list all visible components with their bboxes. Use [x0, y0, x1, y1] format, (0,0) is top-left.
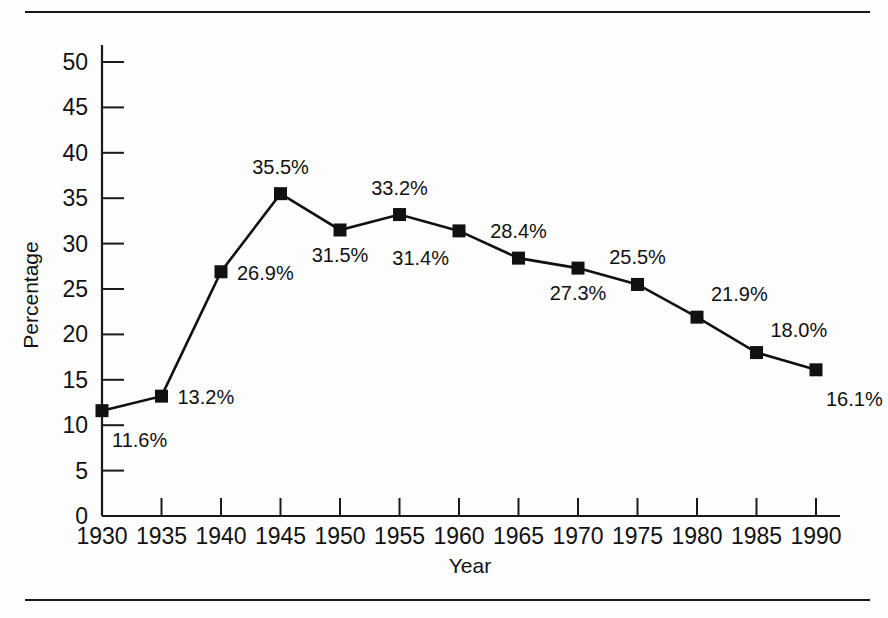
data-point-label: 25.5%: [609, 246, 666, 268]
y-axis-title: Percentage: [19, 241, 42, 348]
y-axis-tick-label: 35: [62, 185, 88, 211]
data-marker: [631, 278, 644, 291]
x-axis-tick-label: 1980: [671, 523, 722, 549]
x-axis-tick-label: 1965: [493, 523, 544, 549]
data-point-label: 31.4%: [392, 247, 449, 269]
x-axis-tick-label: 1940: [195, 523, 246, 549]
x-axis-tick-label: 1975: [612, 523, 663, 549]
data-marker: [691, 311, 704, 324]
x-axis-tick-label: 1960: [433, 523, 484, 549]
x-axis-tick-label: 1950: [314, 523, 365, 549]
y-axis-tick-label: 5: [75, 458, 88, 484]
data-point-label: 18.0%: [771, 319, 828, 341]
y-axis-tick-label: 10: [62, 412, 88, 438]
data-point-label: 35.5%: [252, 156, 309, 178]
chart-figure: 05101520253035404550 1930193519401945195…: [0, 0, 888, 618]
data-point-label: 33.2%: [371, 177, 428, 199]
data-marker: [393, 208, 406, 221]
data-marker: [334, 223, 347, 236]
y-axis-tick-label: 45: [62, 94, 88, 120]
y-axis-tick-label: 30: [62, 231, 88, 257]
data-marker: [750, 346, 763, 359]
x-axis: 1930193519401945195019551960196519701975…: [76, 498, 841, 549]
x-axis-tick-label: 1955: [374, 523, 425, 549]
data-marker: [453, 224, 466, 237]
data-marker: [215, 265, 228, 278]
data-point-label: 26.9%: [237, 262, 294, 284]
line-chart-plot: 05101520253035404550 1930193519401945195…: [0, 0, 888, 618]
y-axis-tick-label: 40: [62, 140, 88, 166]
x-axis-tick-label: 1935: [136, 523, 187, 549]
data-marker: [96, 404, 109, 417]
data-point-labels: 11.6%13.2%26.9%35.5%31.5%33.2%31.4%28.4%…: [112, 156, 883, 451]
x-axis-title: Year: [449, 554, 491, 577]
y-axis-tick-label: 50: [62, 49, 88, 75]
y-axis-tick-label: 15: [62, 367, 88, 393]
data-marker: [572, 262, 585, 275]
data-marker: [274, 187, 287, 200]
x-axis-tick-label: 1985: [731, 523, 782, 549]
data-point-label: 11.6%: [112, 429, 167, 451]
data-marker: [512, 252, 525, 265]
x-axis-tick-label: 1945: [255, 523, 306, 549]
data-marker: [810, 363, 823, 376]
data-point-label: 21.9%: [711, 283, 768, 305]
data-point-label: 13.2%: [178, 386, 235, 408]
data-point-label: 16.1%: [826, 388, 883, 410]
y-axis-tick-label: 25: [62, 276, 88, 302]
y-axis-tick-label: 20: [62, 321, 88, 347]
data-point-label: 27.3%: [550, 282, 607, 304]
x-axis-tick-label: 1970: [552, 523, 603, 549]
x-axis-tick-label: 1930: [76, 523, 127, 549]
data-point-label: 28.4%: [490, 220, 547, 242]
y-axis: 05101520253035404550: [62, 45, 124, 529]
data-point-label: 31.5%: [312, 244, 369, 266]
x-axis-tick-label: 1990: [790, 523, 841, 549]
data-marker: [155, 390, 168, 403]
